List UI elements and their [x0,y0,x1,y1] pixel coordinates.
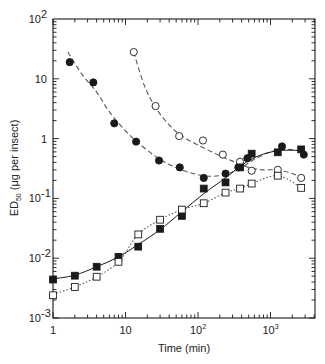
y-tick-label: 10 [29,192,41,204]
y-tick-label: 10 [29,13,41,25]
data-point [71,284,78,291]
y-axis-title-rest: (μg per insect) [8,120,20,194]
data-point [179,212,186,219]
ed50-vs-time-chart: 110102103 10210110-110-210-3 Time (min) … [0,0,325,364]
data-point [274,149,281,156]
y-tick-label: 10 [35,73,47,85]
data-point [248,167,255,174]
y-tick-exponent: -3 [41,307,51,319]
data-point [176,164,183,171]
data-point [248,180,255,187]
data-point [115,258,122,265]
data-point [274,172,281,179]
data-point [135,243,142,250]
y-tick-exponent: 2 [41,8,47,20]
x-tick-labels: 110102103 [50,323,279,336]
fit-curve-filled-circles [68,52,304,176]
data-point [200,185,207,192]
y-tick-exponent: -1 [41,187,51,199]
data-point [222,170,229,177]
data-point [155,157,162,164]
data-point [130,48,137,55]
data-point [90,79,97,86]
fit-curves [53,52,304,294]
data-point [176,133,183,140]
series-open-squares [50,172,305,298]
fit-curve-open-squares [53,176,301,295]
y-tick-label: 10 [29,312,41,324]
data-point [200,174,207,181]
data-point [93,263,100,270]
data-point [219,151,226,158]
y-axis-title: ED50 (μg per insect) [8,120,22,217]
y-tick-labels: 10210110-110-210-3 [29,8,51,324]
data-point [237,185,244,192]
data-point [111,120,118,127]
y-axis-title-main: ED [8,201,20,216]
x-tick-label: 102 [190,323,206,336]
data-point [237,164,244,171]
data-point [199,137,206,144]
data-point [179,206,186,213]
y-tick-exponent: -2 [41,247,51,259]
data-point [50,292,57,299]
x-tick-label: 1 [50,324,56,336]
x-tick-label: 10 [119,324,131,336]
x-axis-title: Time (min) [158,342,210,354]
data-point [71,272,78,279]
data-point [298,146,305,153]
data-point [298,184,305,191]
data-point [222,189,229,196]
data-point [66,59,73,66]
y-tick-label: 10 [29,252,41,264]
data-point [93,273,100,280]
data-markers [50,48,308,298]
y-axis-title-subscript: 50 [15,193,22,201]
data-point [132,138,139,145]
series-filled-circles [66,59,307,182]
data-point [157,216,164,223]
data-point [135,231,142,238]
data-point [200,200,207,207]
data-point [222,179,229,186]
data-point [157,225,164,232]
data-point [248,150,255,157]
y-tick-label: 1 [41,133,47,145]
x-tick-label: 103 [262,323,278,336]
data-point [50,276,57,283]
data-point [298,174,305,181]
data-point [152,102,159,109]
